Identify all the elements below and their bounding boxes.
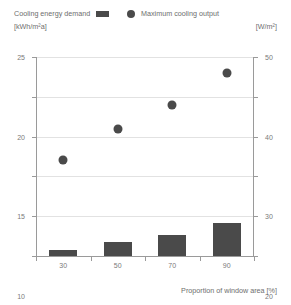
- gridline: [37, 216, 253, 217]
- left-axis-tick-label: 15: [17, 213, 25, 220]
- chart-legend: Cooling energy demand [kWh/m²a] Maximum …: [0, 0, 291, 44]
- right-axis-tick: 50: [254, 57, 258, 58]
- left-y-axis-line: [36, 57, 37, 257]
- legend-unit-maximum-cooling-output: [W/m²]: [127, 22, 277, 32]
- plot-area: 0510152025 01020304050 30507090: [36, 57, 254, 257]
- x-axis-title: Proportion of window area [%]: [181, 286, 277, 296]
- scatter-point: [113, 124, 122, 133]
- x-axis-tick-label: 70: [168, 262, 176, 269]
- scatter-point: [59, 156, 68, 165]
- left-axis-tick: 5: [32, 216, 36, 217]
- right-axis-tick: 30: [254, 137, 258, 138]
- left-axis-tick: 20: [32, 97, 36, 98]
- right-axis-tick: 20: [254, 176, 258, 177]
- right-axis-tick-label: 40: [265, 133, 273, 140]
- right-axis-tick-label: 30: [265, 213, 273, 220]
- gridline: [37, 137, 253, 138]
- gridline: [37, 97, 253, 98]
- bar-swatch-icon: [96, 11, 109, 17]
- bar-mark: [213, 223, 241, 256]
- right-axis-tick: 40: [254, 97, 258, 98]
- right-y-axis-line: [253, 57, 254, 257]
- left-axis-tick-label: 10: [17, 292, 25, 299]
- left-axis-tick: 25: [32, 57, 36, 58]
- x-axis-tick: [145, 257, 146, 261]
- x-axis-tick-label: 30: [59, 262, 67, 269]
- left-axis-tick-label: 25: [17, 54, 25, 61]
- gridline: [37, 176, 253, 177]
- bar-mark: [49, 250, 77, 256]
- scatter-point: [222, 68, 231, 77]
- x-axis-tick: [254, 257, 255, 261]
- bar-mark: [104, 242, 132, 256]
- left-axis-tick-label: 20: [17, 133, 25, 140]
- x-axis-tick: [91, 257, 92, 261]
- bar-mark: [158, 235, 186, 256]
- x-axis-tick-label: 50: [114, 262, 122, 269]
- x-axis-tick: [36, 257, 37, 261]
- legend-label-cooling-energy-demand: Cooling energy demand: [14, 9, 90, 19]
- legend-label-maximum-cooling-output: Maximum cooling output: [141, 9, 219, 19]
- dot-swatch-icon: [127, 10, 135, 18]
- scatter-point: [168, 100, 177, 109]
- right-axis-tick-label: 50: [265, 54, 273, 61]
- x-axis-tick: [200, 257, 201, 261]
- gridline: [37, 57, 253, 58]
- chart-container: Cooling energy demand [kWh/m²a] Maximum …: [0, 0, 291, 305]
- legend-entry-maximum-cooling-output: Maximum cooling output [W/m²]: [127, 9, 277, 32]
- right-axis-tick: 10: [254, 216, 258, 217]
- left-axis-tick: 15: [32, 137, 36, 138]
- left-axis-tick: 10: [32, 176, 36, 177]
- x-axis-tick-label: 90: [223, 262, 231, 269]
